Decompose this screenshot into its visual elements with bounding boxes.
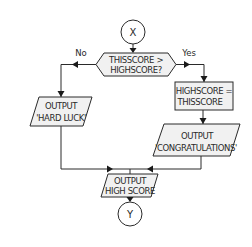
hard-luck-line-2: 'HARD LUCK' [36, 113, 86, 123]
no-branch-label: No [75, 48, 87, 58]
start-connector: X [121, 20, 145, 44]
end-connector-label: Y [126, 209, 134, 220]
arrow-start-to-decision [130, 44, 137, 53]
process-line-2: THISSCORE [176, 97, 222, 107]
decision-line-1: THISSCORE > [108, 55, 163, 65]
yes-branch-label: Yes [181, 48, 196, 58]
flowchart: X THISSCORE > HIGHSCORE? No Yes OUTPUT '… [0, 0, 252, 247]
congrats-line-1: OUTPUT [181, 131, 214, 141]
final-output-line-1: OUTPUT [114, 176, 147, 186]
hard-luck-line-1: OUTPUT [45, 101, 78, 111]
end-connector: Y [118, 202, 142, 226]
arrow-yes-path [176, 61, 208, 82]
arrow-no-path [58, 61, 97, 97]
process-highscore-assign: HIGHSCORE = THISSCORE [175, 82, 233, 110]
process-line-1: HIGHSCORE = [176, 86, 233, 96]
decision-node: THISSCORE > HIGHSCORE? [96, 53, 176, 76]
output-high-score: OUTPUT HIGH SCORE [101, 174, 158, 197]
output-congratulations: OUTPUT 'CONGRATULATIONS' [153, 124, 240, 156]
decision-line-2: HIGHSCORE? [110, 65, 162, 75]
final-output-line-2: HIGH SCORE [105, 186, 155, 196]
arrow-output-to-end [127, 197, 134, 202]
congrats-line-2: 'CONGRATULATIONS' [155, 143, 237, 153]
output-hard-luck: OUTPUT 'HARD LUCK' [30, 97, 92, 126]
start-connector-label: X [130, 27, 137, 38]
arrow-process-to-congrats [200, 110, 207, 124]
